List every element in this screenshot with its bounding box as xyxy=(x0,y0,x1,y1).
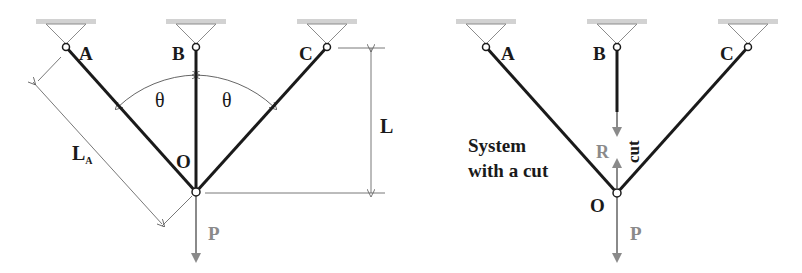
right-diagram-system-with-cut: A B C O System with a cut R cut P xyxy=(456,19,778,258)
label-node-c-right: C xyxy=(720,43,734,64)
angle-arc-right xyxy=(196,75,274,107)
support-a-right xyxy=(456,19,516,44)
caption-line-1: System xyxy=(468,135,526,156)
label-node-b-right: B xyxy=(593,43,606,64)
support-b xyxy=(166,19,226,44)
label-node-o: O xyxy=(176,151,191,172)
label-angle-right: θ xyxy=(222,89,232,111)
label-reaction-r: R xyxy=(596,142,610,162)
pin-c xyxy=(324,44,331,51)
label-node-o-right: O xyxy=(590,195,605,216)
pin-b-right xyxy=(614,44,621,51)
label-load-p: P xyxy=(208,223,220,244)
label-dimension-l: L xyxy=(380,115,393,137)
caption-line-2: with a cut xyxy=(468,160,549,181)
label-cut: cut xyxy=(624,140,643,163)
pin-a-right xyxy=(483,44,490,51)
support-c-right xyxy=(718,19,778,44)
pin-o-right xyxy=(613,189,621,197)
pin-a xyxy=(63,44,70,51)
dim-ext-la-top xyxy=(38,57,61,81)
truss-diagram-canvas: A B C O θ θ L LA P xyxy=(0,0,802,273)
support-c xyxy=(297,19,357,44)
label-node-a: A xyxy=(79,43,93,64)
label-node-c: C xyxy=(299,43,313,64)
label-node-a-right: A xyxy=(501,43,515,64)
label-dimension-la: LA xyxy=(72,142,93,166)
bar-co xyxy=(196,47,327,192)
pin-c-right xyxy=(745,44,752,51)
label-load-p-right: P xyxy=(630,223,642,244)
dim-ext-la-bottom xyxy=(162,196,192,226)
support-a xyxy=(36,19,96,44)
support-b-right xyxy=(587,19,647,44)
pin-b xyxy=(193,44,200,51)
dim-line-la xyxy=(33,82,162,224)
pin-o xyxy=(192,188,200,196)
left-diagram-original-system: A B C O θ θ L LA P xyxy=(33,19,393,258)
label-angle-left: θ xyxy=(155,89,165,111)
label-node-b: B xyxy=(172,43,185,64)
bar-co-right xyxy=(617,47,748,193)
